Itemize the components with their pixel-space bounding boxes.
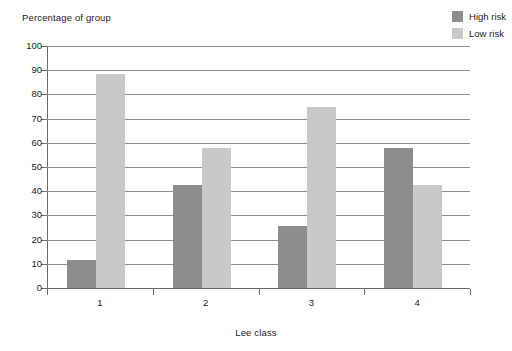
y-tick-label: 10 <box>6 259 42 269</box>
bar-high-risk-class-4[interactable] <box>384 148 413 288</box>
x-tick-label-1: 1 <box>80 297 120 308</box>
x-tick-mark <box>153 289 154 295</box>
gridline-y-90 <box>47 70 470 71</box>
x-tick-mark <box>259 289 260 295</box>
bar-high-risk-class-2[interactable] <box>173 185 202 288</box>
bar-low-risk-class-1[interactable] <box>96 74 125 288</box>
x-tick-mark <box>47 289 48 295</box>
y-tick-label: 70 <box>6 114 42 124</box>
y-tick-label: 40 <box>6 186 42 196</box>
plot-area <box>47 46 470 288</box>
bar-low-risk-class-3[interactable] <box>307 107 336 289</box>
y-tick-label: 60 <box>6 138 42 148</box>
bar-low-risk-class-2[interactable] <box>202 148 231 288</box>
gridline-y-100 <box>47 46 470 47</box>
plot-wrapper: 01020304050607080901001234 <box>0 0 512 351</box>
y-tick-label: 90 <box>6 65 42 75</box>
x-tick-label-2: 2 <box>186 297 226 308</box>
x-tick-mark <box>364 289 365 295</box>
bar-low-risk-class-4[interactable] <box>413 185 442 288</box>
x-tick-label-4: 4 <box>397 297 437 308</box>
y-tick-label: 20 <box>6 235 42 245</box>
bar-high-risk-class-3[interactable] <box>278 226 307 288</box>
bar-chart-figure: Percentage of group High riskLow risk 01… <box>0 0 512 351</box>
y-tick-label: 50 <box>6 162 42 172</box>
y-tick-label: 0 <box>6 283 42 293</box>
y-tick-label: 30 <box>6 211 42 221</box>
y-tick-label: 100 <box>6 41 42 51</box>
x-tick-mark <box>470 289 471 295</box>
bar-high-risk-class-1[interactable] <box>67 260 96 288</box>
y-tick-label: 80 <box>6 90 42 100</box>
x-tick-label-3: 3 <box>291 297 331 308</box>
x-axis-title: Lee class <box>0 327 512 338</box>
